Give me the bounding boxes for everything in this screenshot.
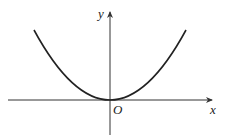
x-axis-label: x xyxy=(209,102,216,117)
origin-label: O xyxy=(113,102,123,117)
parabola-diagram: y x O xyxy=(0,0,226,140)
y-axis-label: y xyxy=(96,6,104,21)
